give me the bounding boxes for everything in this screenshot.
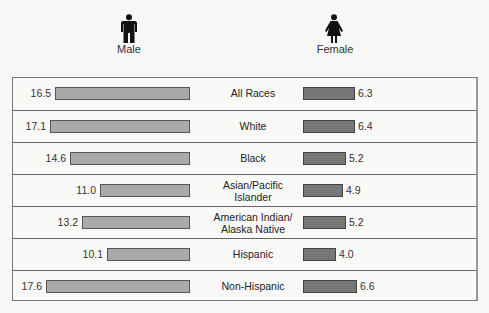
category-label-line: Asian/Pacific [208, 179, 298, 191]
category-label-line: White [208, 120, 298, 132]
male-value: 17.6 [6, 280, 42, 292]
category-label-line: Islander [208, 191, 298, 203]
male-value: 11.0 [60, 184, 96, 196]
table-row: 13.2American Indian/Alaska Native5.2 [13, 206, 476, 238]
table-row: 16.5All Races6.3 [13, 78, 476, 110]
male-bar [46, 280, 190, 293]
category-label: White [208, 120, 298, 132]
category-label: Asian/PacificIslander [208, 179, 298, 203]
comparison-table: 16.5All Races6.317.1White6.414.6Black5.2… [12, 77, 478, 301]
male-bar [100, 184, 190, 197]
male-column-header: Male [89, 43, 169, 55]
female-value: 4.9 [346, 184, 361, 196]
category-label: Non-Hispanic [208, 280, 298, 292]
table-row: 17.6Non-Hispanic6.6 [13, 270, 476, 302]
male-value: 16.5 [15, 87, 51, 99]
male-bar [82, 216, 190, 229]
female-bar [303, 280, 357, 293]
female-value: 6.6 [360, 280, 375, 292]
male-value: 17.1 [10, 120, 46, 132]
table-row: 17.1White6.4 [13, 110, 476, 142]
female-bar [303, 152, 346, 165]
category-label-line: American Indian/ [208, 211, 298, 223]
female-bar [303, 87, 355, 100]
female-bar [303, 216, 346, 229]
category-label: Hispanic [208, 248, 298, 260]
category-label: Black [208, 152, 298, 164]
male-value: 10.1 [67, 248, 103, 260]
category-label: All Races [208, 87, 298, 99]
table-row: 14.6Black5.2 [13, 142, 476, 174]
female-value: 6.3 [358, 87, 373, 99]
male-bar [55, 87, 190, 100]
female-column-header: Female [295, 43, 375, 55]
category-label-line: All Races [208, 87, 298, 99]
table-row: 11.0Asian/PacificIslander4.9 [13, 174, 476, 206]
male-value: 14.6 [30, 152, 66, 164]
female-value: 5.2 [349, 152, 364, 164]
male-value: 13.2 [42, 216, 78, 228]
table-row: 10.1Hispanic4.0 [13, 238, 476, 270]
category-label-line: Hispanic [208, 248, 298, 260]
category-label-line: Alaska Native [208, 223, 298, 235]
female-bar [303, 184, 343, 197]
male-bar [50, 120, 190, 133]
male-bar [70, 152, 190, 165]
female-value: 4.0 [339, 248, 354, 260]
category-label-line: Black [208, 152, 298, 164]
category-label: American Indian/Alaska Native [208, 211, 298, 235]
female-value: 5.2 [349, 216, 364, 228]
female-bar [303, 120, 355, 133]
male-bar [107, 248, 190, 261]
category-label-line: Non-Hispanic [208, 280, 298, 292]
female-value: 6.4 [358, 120, 373, 132]
female-bar [303, 248, 336, 261]
